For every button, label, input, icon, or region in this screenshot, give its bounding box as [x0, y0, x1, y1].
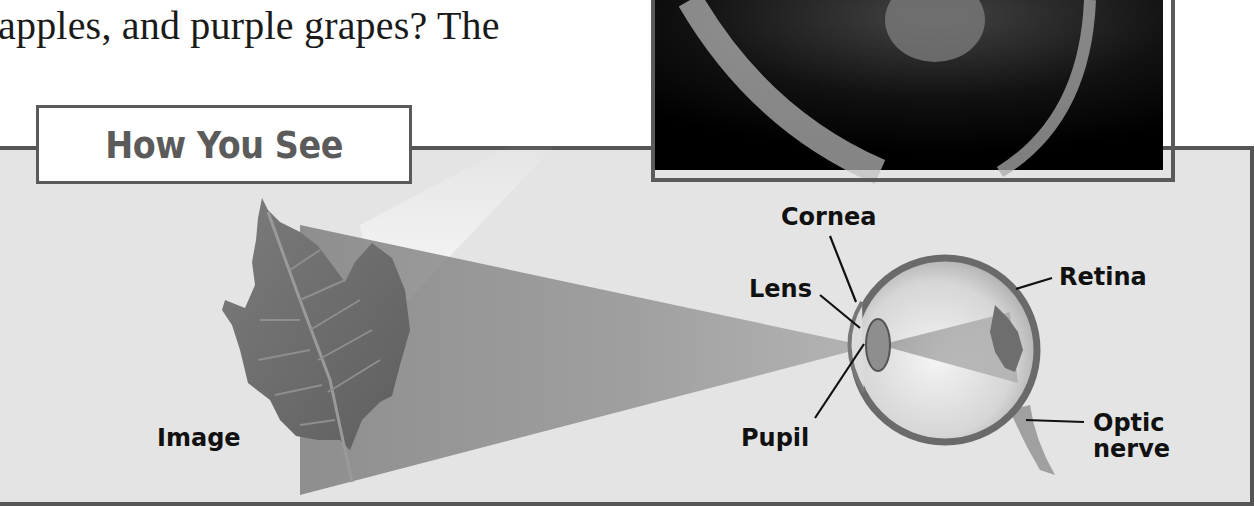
label-retina: Retina	[1059, 264, 1147, 290]
retina-photograph	[651, 0, 1175, 182]
lens-shape	[866, 319, 890, 371]
optic-nerve-shape	[1010, 405, 1055, 475]
figure-title: How You See	[105, 123, 343, 167]
label-optic-nerve-line1: Optic	[1093, 409, 1165, 437]
figure-title-box: How You See	[36, 105, 412, 184]
label-pupil: Pupil	[741, 425, 809, 451]
label-cornea: Cornea	[781, 204, 877, 230]
label-optic-nerve-line2: nerve	[1093, 435, 1170, 463]
label-optic-nerve: Optic nerve	[1093, 410, 1170, 462]
label-lens: Lens	[749, 276, 812, 302]
label-image: Image	[157, 425, 241, 451]
